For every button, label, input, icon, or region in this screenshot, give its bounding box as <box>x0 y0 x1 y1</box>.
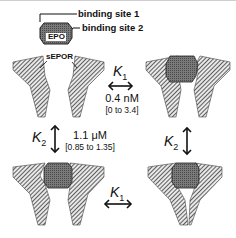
state-bottom-right <box>148 163 222 225</box>
sepor-label: sEPOR <box>46 53 73 61</box>
k1-label-top: K1 <box>113 64 127 82</box>
k1-value: 0.4 nM <box>104 93 140 104</box>
epo-label: EPO <box>48 33 65 41</box>
k2-arrow-right <box>183 128 191 154</box>
state-top-right <box>146 56 230 117</box>
binding-site-2-label: binding site 2 <box>82 23 143 33</box>
k2-range: [0.85 to 1.35] <box>62 143 118 152</box>
sepor-receptor-left <box>13 56 50 117</box>
k1-range: [0 to 3.4] <box>104 106 140 115</box>
k1-arrow-top <box>109 82 132 90</box>
k2-value: 1.1 μM <box>62 130 118 141</box>
sepor-receptor-right <box>68 56 104 117</box>
k2-label-left: K2 <box>32 130 46 148</box>
k1-label-bottom: K1 <box>110 185 124 203</box>
k2-arrow-left <box>51 126 59 152</box>
k2-label-right: K2 <box>164 134 178 152</box>
state-bottom-left <box>13 163 104 225</box>
binding-site-1-label: binding site 1 <box>78 9 139 19</box>
